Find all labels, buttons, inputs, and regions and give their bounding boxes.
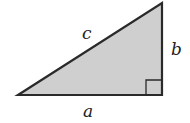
right-triangle-diagram: c b a	[0, 0, 190, 123]
triangle	[18, 3, 162, 95]
label-leg-a: a	[83, 101, 93, 121]
label-hypotenuse-c: c	[82, 23, 92, 43]
label-leg-b: b	[171, 39, 182, 59]
